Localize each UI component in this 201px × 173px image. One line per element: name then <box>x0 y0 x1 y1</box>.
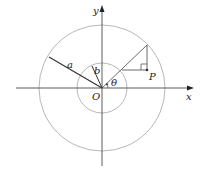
radius-b-label: b <box>94 65 100 76</box>
origin-label: O <box>92 91 100 102</box>
x-axis-label: x <box>186 91 192 102</box>
diagram-canvas: y x O a b θ P <box>0 0 201 173</box>
y-axis-arrow-icon <box>100 5 105 12</box>
point-p-label: P <box>148 71 156 82</box>
angle-theta-label: θ <box>111 77 117 88</box>
x-axis-arrow-icon <box>187 86 194 91</box>
radius-a-label: a <box>67 59 73 70</box>
theta-ray <box>102 45 147 88</box>
point-p-dot <box>146 69 149 72</box>
y-axis-label: y <box>92 5 99 16</box>
